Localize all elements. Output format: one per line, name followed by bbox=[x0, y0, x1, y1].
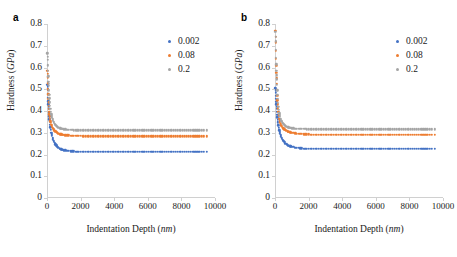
x-tick-label: 6000 bbox=[367, 202, 385, 211]
legend-item: 0.002 bbox=[396, 36, 427, 47]
y-axis-title-b: Hardness (GPa) bbox=[234, 50, 244, 111]
y-axis-title-a: Hardness (GPa) bbox=[6, 50, 16, 111]
y-tick-label: 0.5 bbox=[30, 85, 42, 95]
data-point bbox=[46, 52, 48, 54]
y-tick-label: 0.1 bbox=[30, 172, 42, 182]
y-tick bbox=[44, 111, 47, 112]
x-tick-label: 4000 bbox=[333, 202, 351, 211]
legend-label: 0.002 bbox=[178, 37, 199, 47]
data-point bbox=[433, 128, 435, 130]
data-point bbox=[48, 93, 50, 95]
y-tick bbox=[44, 176, 47, 177]
data-point bbox=[433, 134, 435, 136]
data-point bbox=[274, 30, 276, 32]
y-tick-label: 0.2 bbox=[258, 150, 270, 160]
x-tick-label: 0 bbox=[273, 202, 278, 211]
data-point bbox=[48, 89, 50, 91]
x-axis-title-b: Indentation Depth (nm) bbox=[275, 224, 443, 235]
y-tick bbox=[44, 133, 47, 134]
x-tick-label: 2000 bbox=[300, 202, 318, 211]
legend-marker-icon bbox=[396, 40, 399, 43]
x-tick-label: 8000 bbox=[400, 202, 418, 211]
x-tick-label: 4000 bbox=[105, 202, 123, 211]
legend-item: 0.08 bbox=[396, 50, 427, 61]
y-tick bbox=[272, 155, 275, 156]
legend-item: 0.002 bbox=[168, 36, 199, 47]
x-tick-label: 8000 bbox=[172, 202, 190, 211]
legend-label: 0.002 bbox=[406, 37, 427, 47]
legend-item: 0.08 bbox=[168, 50, 199, 61]
x-tick-label: 0 bbox=[45, 202, 50, 211]
panel-b: b 00.10.20.30.40.50.60.70.8 020004000600… bbox=[228, 0, 456, 257]
legend-label: 0.2 bbox=[406, 65, 418, 75]
y-tick bbox=[44, 89, 47, 90]
y-tick bbox=[44, 24, 47, 25]
y-tick-label: 0.4 bbox=[258, 106, 270, 116]
y-tick-label: 0.6 bbox=[30, 63, 42, 73]
legend-label: 0.2 bbox=[178, 65, 190, 75]
x-tick-label: 10000 bbox=[432, 202, 455, 211]
y-tick-label: 0.8 bbox=[258, 19, 270, 29]
y-tick-label: 0 bbox=[265, 193, 270, 203]
y-tick-label: 0.3 bbox=[258, 128, 270, 138]
y-tick bbox=[272, 46, 275, 47]
y-tick bbox=[272, 133, 275, 134]
y-tick bbox=[272, 24, 275, 25]
data-point bbox=[47, 64, 49, 66]
data-point bbox=[276, 84, 278, 86]
x-tick-label: 10000 bbox=[204, 202, 227, 211]
y-tick bbox=[44, 46, 47, 47]
panel-a: a 00.10.20.30.40.50.60.70.8 020004000600… bbox=[0, 0, 228, 257]
x-tick-label: 2000 bbox=[72, 202, 90, 211]
y-tick bbox=[272, 89, 275, 90]
y-tick-label: 0.7 bbox=[258, 41, 270, 51]
x-axis-title-a: Indentation Depth (nm) bbox=[47, 224, 215, 235]
legend-marker-icon bbox=[396, 68, 399, 71]
y-tick-label: 0.1 bbox=[258, 172, 270, 182]
y-tick bbox=[272, 111, 275, 112]
y-tick-label: 0.8 bbox=[30, 19, 42, 29]
y-tick-label: 0.7 bbox=[30, 41, 42, 51]
x-tick-label: 6000 bbox=[139, 202, 157, 211]
legend-marker-icon bbox=[168, 54, 171, 57]
y-tick bbox=[272, 68, 275, 69]
data-point bbox=[275, 78, 277, 80]
legend-label: 0.08 bbox=[178, 51, 195, 61]
legend-marker-icon bbox=[168, 40, 171, 43]
panel-label-b: b bbox=[241, 13, 247, 23]
legend-marker-icon bbox=[396, 54, 399, 57]
y-tick bbox=[44, 68, 47, 69]
panel-label-a: a bbox=[13, 13, 19, 23]
data-point bbox=[275, 74, 277, 76]
data-point bbox=[47, 70, 49, 72]
y-tick-label: 0.4 bbox=[30, 106, 42, 116]
legend-label: 0.08 bbox=[406, 51, 423, 61]
y-tick-label: 0.2 bbox=[30, 150, 42, 160]
legend-marker-icon bbox=[168, 68, 171, 71]
legend-a: 0.002 0.08 0.2 bbox=[168, 36, 199, 75]
data-point bbox=[46, 59, 48, 61]
data-point bbox=[205, 151, 207, 153]
y-tick bbox=[44, 155, 47, 156]
data-point bbox=[46, 55, 48, 57]
data-point bbox=[433, 148, 435, 150]
data-point bbox=[205, 129, 207, 131]
legend-item: 0.2 bbox=[168, 64, 199, 75]
data-point bbox=[274, 35, 276, 37]
legend-item: 0.2 bbox=[396, 64, 427, 75]
data-point bbox=[205, 135, 207, 137]
y-tick-label: 0 bbox=[37, 193, 42, 203]
y-tick-label: 0.3 bbox=[30, 128, 42, 138]
legend-b: 0.002 0.08 0.2 bbox=[396, 36, 427, 75]
y-tick-label: 0.5 bbox=[258, 85, 270, 95]
y-tick-label: 0.6 bbox=[258, 63, 270, 73]
figure-two-panel-scatter: a 00.10.20.30.40.50.60.70.8 020004000600… bbox=[0, 0, 457, 257]
y-tick bbox=[272, 176, 275, 177]
